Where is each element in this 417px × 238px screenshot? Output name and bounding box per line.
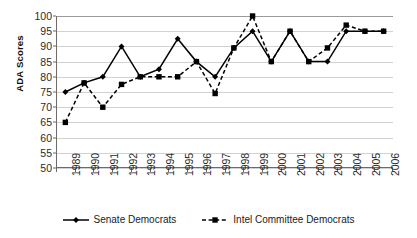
x-tick-label-1996: 1996 <box>201 153 213 176</box>
plot-area: 10095908580757065605550 <box>56 16 393 168</box>
y-tick-label-95: 95 <box>40 25 52 37</box>
y-axis-line <box>56 16 57 168</box>
legend-label-2: Intel Committee Democrats <box>233 214 354 225</box>
chart-legend: Senate DemocratsIntel Committee Democrat… <box>0 214 417 225</box>
data-point-2006-s2 <box>381 29 386 34</box>
y-tick-label-100: 100 <box>34 10 52 22</box>
data-point-1989-s1 <box>62 89 68 95</box>
x-tick-label-2006: 2006 <box>389 153 401 176</box>
x-tick-label-1992: 1992 <box>127 153 139 176</box>
data-point-1990-s2 <box>81 80 86 85</box>
data-point-1995-s2 <box>175 74 180 79</box>
data-point-1994-s2 <box>156 74 161 79</box>
ada-scores-line-chart: ADA Scores 10095908580757065605550 19891… <box>0 0 417 238</box>
y-tick-label-75: 75 <box>40 86 52 98</box>
square-marker-icon <box>202 215 228 225</box>
legend-entry-2[interactable]: Intel Committee Democrats <box>202 214 354 225</box>
data-point-1993-s2 <box>138 74 143 79</box>
legend-entry-1[interactable]: Senate Democrats <box>63 214 177 225</box>
data-point-2000-s2 <box>269 59 274 64</box>
x-tick-label-1991: 1991 <box>108 153 120 176</box>
x-tick-label-2005: 2005 <box>370 153 382 176</box>
x-tick-label-2004: 2004 <box>351 153 363 176</box>
x-tick-label-1994: 1994 <box>164 153 176 176</box>
data-point-2005-s2 <box>362 29 367 34</box>
data-point-1991-s2 <box>100 105 105 110</box>
data-point-2004-s2 <box>343 22 348 27</box>
x-tick-label-1989: 1989 <box>70 153 82 176</box>
y-tick-label-90: 90 <box>40 40 52 52</box>
data-point-1992-s2 <box>119 82 124 87</box>
y-tick-label-65: 65 <box>40 116 52 128</box>
data-point-2001-s2 <box>287 29 292 34</box>
diamond-marker-icon <box>63 215 89 225</box>
x-tick-label-2001: 2001 <box>295 153 307 176</box>
series-line-2 <box>65 16 383 122</box>
y-tick-label-85: 85 <box>40 56 52 68</box>
series-plot <box>56 16 393 168</box>
data-point-1999-s2 <box>250 13 255 18</box>
data-point-2002-s2 <box>306 59 311 64</box>
y-axis-title: ADA Scores <box>14 9 25 119</box>
x-tick-label-2002: 2002 <box>314 153 326 176</box>
y-tick-label-60: 60 <box>40 132 52 144</box>
x-tick-label-1997: 1997 <box>220 153 232 176</box>
y-tick-label-80: 80 <box>40 71 52 83</box>
x-tick-label-1999: 1999 <box>258 153 270 176</box>
data-point-1998-s2 <box>231 45 236 50</box>
data-point-1996-s2 <box>194 59 199 64</box>
x-tick-label-1993: 1993 <box>145 153 157 176</box>
series-line-1 <box>65 31 383 92</box>
x-tick-label-1998: 1998 <box>239 153 251 176</box>
legend-label-1: Senate Democrats <box>94 214 177 225</box>
y-tick-label-55: 55 <box>40 147 52 159</box>
x-tick-label-1990: 1990 <box>89 153 101 176</box>
y-tick-label-50: 50 <box>40 162 52 174</box>
data-point-1989-s2 <box>63 120 68 125</box>
data-point-1997-s2 <box>212 91 217 96</box>
data-point-2003-s2 <box>325 45 330 50</box>
x-tick-mark-1989 <box>56 168 57 172</box>
x-tick-label-2000: 2000 <box>276 153 288 176</box>
x-tick-label-2003: 2003 <box>332 153 344 176</box>
y-tick-label-70: 70 <box>40 101 52 113</box>
x-tick-label-1995: 1995 <box>183 153 195 176</box>
